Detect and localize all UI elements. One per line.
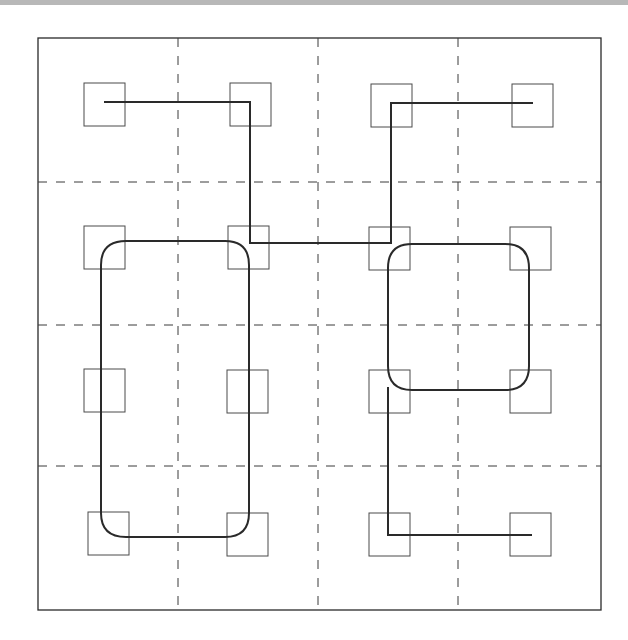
pad-box-r2-c0 [84, 369, 125, 412]
dashed-grid [38, 38, 601, 610]
pad-box-r3-c0 [88, 512, 129, 555]
pad-box-r1-c2 [369, 227, 410, 270]
pad-box-r0-c3 [512, 84, 553, 127]
pad-box-r2-c1 [227, 370, 268, 413]
pad-box-r0-c0 [84, 83, 125, 126]
pad-box-r1-c3 [510, 227, 551, 270]
grid-route-diagram [0, 0, 628, 640]
pad-box-r1-c0 [84, 226, 125, 269]
outer-frame [38, 38, 601, 610]
pad-box-r2-c3 [510, 370, 551, 413]
route-paths [101, 102, 533, 537]
